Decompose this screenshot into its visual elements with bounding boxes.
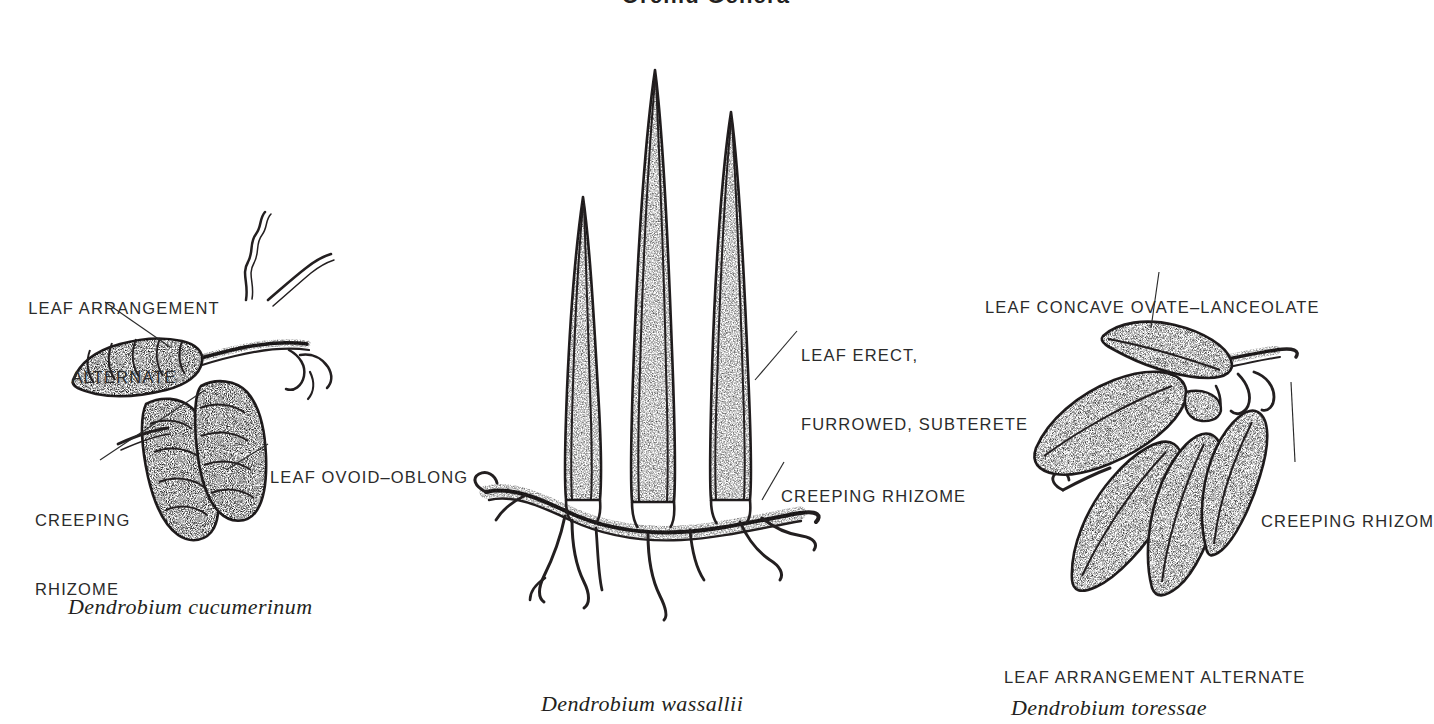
label-line-1: CREEPING RHIZOM	[1261, 510, 1434, 533]
label-line-1: CREEPING RHIZOME	[781, 485, 966, 508]
label-leaf-arrangement-alternate-left: LEAF ARRANGEMENT ALTERNATE	[24, 251, 224, 435]
caption-dendrobium-toressae: Dendrobium toressae	[1011, 695, 1207, 721]
erect-leaf-right	[710, 112, 751, 500]
label-line-1: LEAF ARRANGEMENT ALTERNATE	[1004, 666, 1305, 689]
caption-dendrobium-wassallii: Dendrobium wassallii	[541, 691, 743, 717]
leader-leaf-erect-furrowed-subterete	[755, 331, 797, 380]
label-line-2: FURROWED, SUBTERETE	[801, 413, 1028, 436]
label-leaf-ovoid-oblong: LEAF OVOID–OBLONG	[270, 420, 468, 535]
label-creeping-rhizome-right: CREEPING RHIZOM	[1261, 464, 1434, 579]
label-leaf-concave-ovate-lanceolate: LEAF CONCAVE OVATE–LANCEOLATE	[985, 250, 1320, 365]
erect-leaf-center	[631, 70, 675, 502]
caption-dendrobium-cucumerinum: Dendrobium cucumerinum	[68, 594, 312, 620]
label-line-2: ALTERNATE	[24, 366, 224, 389]
erect-leaf-left	[565, 197, 601, 500]
leaf-right	[1202, 411, 1267, 556]
label-line-1: LEAF OVOID–OBLONG	[270, 466, 468, 489]
label-line-1: LEAF ARRANGEMENT	[24, 297, 224, 320]
leader-creeping-rhizome-right	[1291, 382, 1295, 462]
specimen-dendrobium-wassallii-artwork	[475, 70, 819, 620]
label-creeping-rhizome-middle: CREEPING RHIZOME	[781, 439, 966, 554]
label-line-1: LEAF CONCAVE OVATE–LANCEOLATE	[985, 296, 1320, 319]
label-line-1: CREEPING	[35, 509, 185, 532]
